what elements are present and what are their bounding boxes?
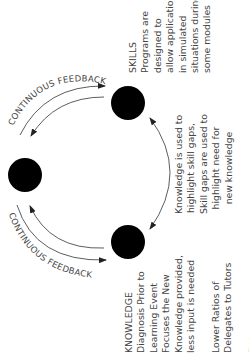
knowledge-line: Diagnosis Prior to bbox=[135, 255, 147, 353]
spacer bbox=[235, 255, 247, 353]
spacer bbox=[197, 255, 209, 353]
knowledge-line: less input is needed bbox=[185, 255, 197, 353]
feedback-label-bottom: CONTINUOUS FEEDBACK bbox=[7, 211, 93, 280]
skills-line: some modules bbox=[201, 0, 213, 73]
link-text: Knowledge is used to highlight skill gap… bbox=[173, 122, 235, 214]
link-line: Skill gaps are used to bbox=[198, 122, 210, 214]
skills-line: in simulated bbox=[177, 0, 189, 73]
link-arrow bbox=[150, 118, 170, 229]
link-line: new knowledge bbox=[223, 122, 235, 214]
skills-line: Programs are bbox=[139, 0, 151, 73]
knowledge-line: Learning Event bbox=[148, 255, 160, 353]
knowledge-text: KNOWLEDGE Diagnosis Prior to Learning Ev… bbox=[123, 255, 249, 353]
skills-line: designed to bbox=[152, 0, 164, 73]
feedback-arrow-from-skills bbox=[31, 97, 104, 136]
skills-line: situations during bbox=[189, 0, 201, 73]
knowledge-line: Focuses the New bbox=[160, 255, 172, 353]
knowledge-line: Lower Ratios of bbox=[210, 255, 222, 353]
feedback-label-top: CONTINUOUS FEEDBACK bbox=[6, 73, 108, 127]
knowledge-line: Delegates are bbox=[247, 255, 249, 353]
knowledge-line: Delegates to Tutors bbox=[222, 255, 234, 353]
link-line: Knowledge is used to bbox=[173, 122, 185, 214]
skills-node bbox=[111, 86, 145, 120]
skills-title: SKILLS bbox=[127, 0, 139, 73]
knowledge-line: Knowledge provided, bbox=[173, 255, 185, 353]
knowledge-node bbox=[111, 225, 145, 259]
skills-line: allow application bbox=[164, 0, 176, 73]
link-line: highlight need for bbox=[210, 122, 222, 214]
knowledge-title: KNOWLEDGE bbox=[123, 255, 135, 353]
skills-text: SKILLS Programs are designed to allow ap… bbox=[127, 0, 214, 73]
link-line: highlight skill gaps, bbox=[185, 122, 197, 214]
left-node bbox=[8, 158, 42, 192]
